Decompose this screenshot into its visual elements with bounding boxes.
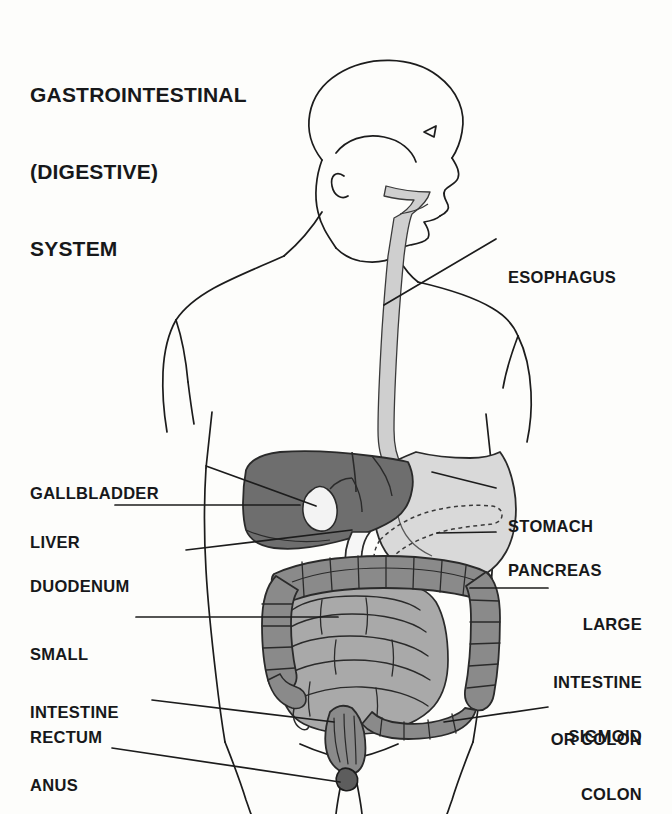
label-sigmoid-colon-line-1: SIGMOID [568, 727, 642, 746]
page-title-line-1: GASTROINTESTINAL [30, 82, 247, 108]
esophagus-organ [378, 186, 430, 466]
page-title-line-2: (DIGESTIVE) [30, 159, 247, 185]
label-sigmoid-colon-line-2: COLON [568, 785, 642, 804]
label-duodenum-text: DUODENUM [30, 577, 130, 596]
label-anus-text: ANUS [30, 776, 78, 795]
leader-pancreas [437, 532, 496, 533]
page-title-line-3: SYSTEM [30, 236, 247, 262]
diagram-page: GASTROINTESTINAL (DIGESTIVE) SYSTEM GALL… [0, 0, 672, 814]
leader-anus [112, 748, 340, 782]
label-large-intestine-line-1: LARGE [551, 615, 642, 634]
small-intestine-organ [274, 582, 448, 734]
label-esophagus: ESOPHAGUS [508, 230, 616, 326]
anus-organ [336, 768, 357, 791]
label-small-intestine-line-1: SMALL [30, 645, 119, 664]
label-esophagus-text: ESOPHAGUS [508, 268, 616, 287]
label-anus: ANUS [30, 738, 78, 814]
page-title: GASTROINTESTINAL (DIGESTIVE) SYSTEM [30, 31, 247, 313]
label-sigmoid-colon: SIGMOID COLON [568, 689, 642, 814]
